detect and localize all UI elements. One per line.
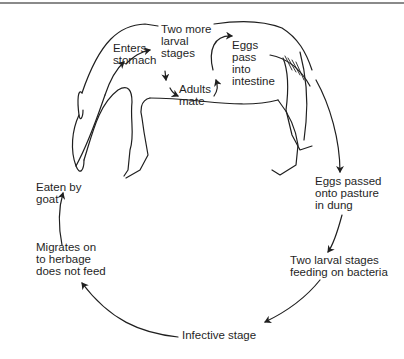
label-eaten-by-goat: Eaten by goat <box>36 181 81 205</box>
label-adults-mate: Adults mate <box>179 83 211 107</box>
label-eggs-pass-into-intestine: Eggs pass into intestine <box>232 39 275 87</box>
label-infective-stage: Infective stage <box>182 329 256 341</box>
label-enters-stomach: Enters stomach <box>113 42 156 66</box>
label-migrates-on-to-herbage: Migrates on to herbage does not feed <box>36 241 106 277</box>
label-two-more-larval-stages: Two more larval stages <box>161 23 212 59</box>
label-two-larval-stages-bacteria: Two larval stages feeding on bacteria <box>290 254 388 278</box>
label-eggs-passed-onto-pasture: Eggs passed onto pasture in dung <box>315 175 382 211</box>
